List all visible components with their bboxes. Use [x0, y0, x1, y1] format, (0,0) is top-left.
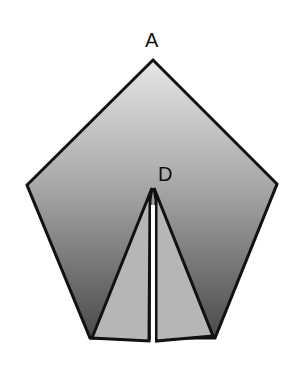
pentagon-diagram: A D [0, 0, 297, 377]
center-gap [151, 205, 155, 343]
label-a: A [145, 29, 159, 51]
label-d: D [158, 163, 172, 185]
